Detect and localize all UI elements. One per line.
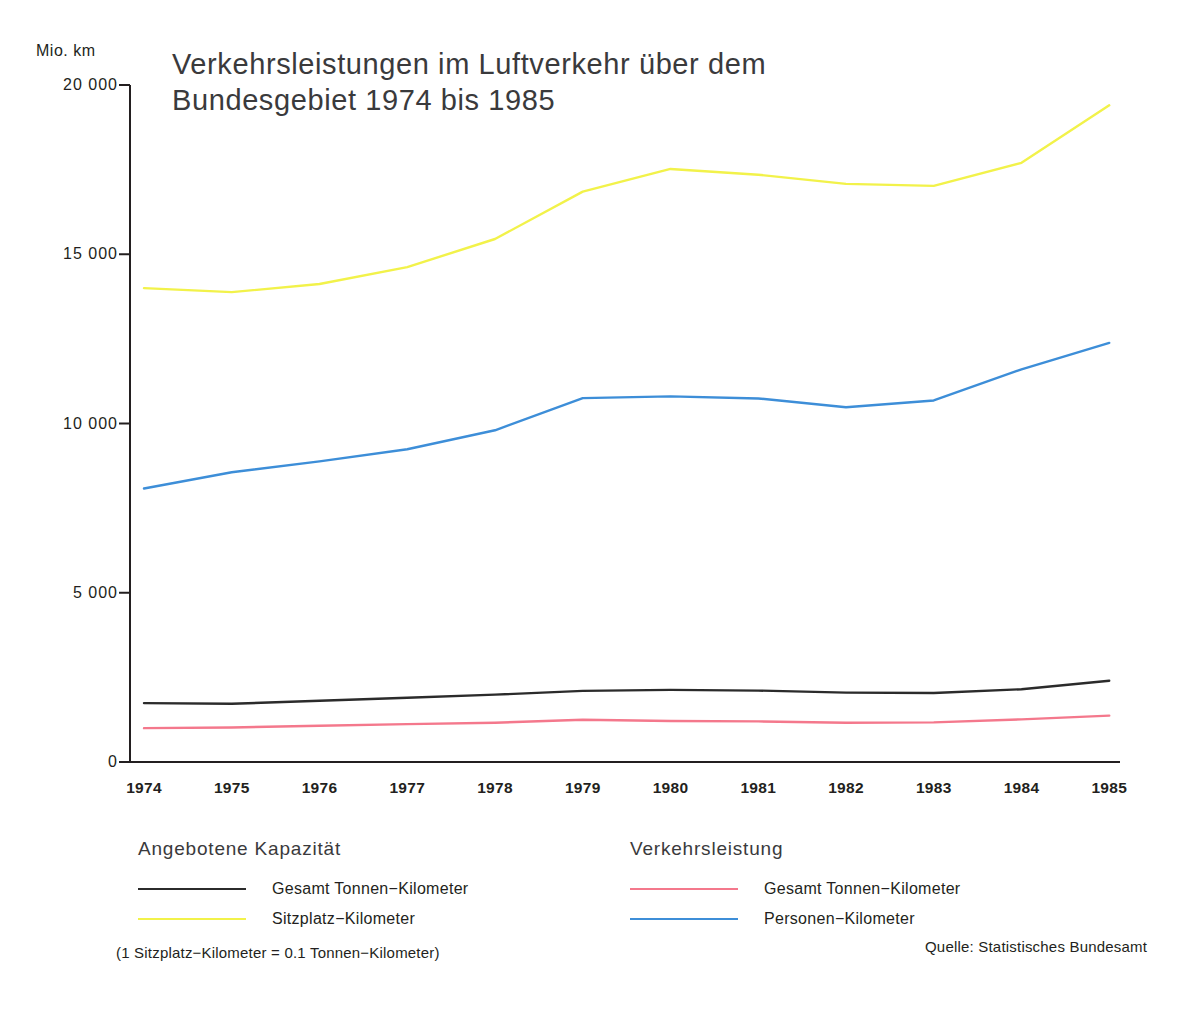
legend-capacity: Angebotene Kapazität Gesamt Tonnen−Kilom… bbox=[138, 838, 469, 940]
legend-item-capacity-sitzplatz[interactable]: Sitzplatz−Kilometer bbox=[138, 910, 469, 928]
legend-swatch-black bbox=[138, 888, 246, 890]
y-tick-label: 20 000 bbox=[10, 76, 118, 94]
x-tick-label: 1975 bbox=[214, 779, 250, 797]
chart-page: Mio. km Verkehrsleistungen im Luftverkeh… bbox=[0, 0, 1194, 1017]
series-line-personen-kilometer bbox=[144, 343, 1109, 489]
y-tick-label: 10 000 bbox=[10, 415, 118, 433]
x-tick-label: 1980 bbox=[653, 779, 689, 797]
x-tick-label: 1982 bbox=[828, 779, 864, 797]
x-tick-label: 1985 bbox=[1091, 779, 1127, 797]
axis-lines bbox=[119, 85, 1120, 762]
legend-item-performance-personen[interactable]: Personen−Kilometer bbox=[630, 910, 961, 928]
legend-label-performance-personen: Personen−Kilometer bbox=[764, 910, 915, 928]
x-tick-label: 1983 bbox=[916, 779, 952, 797]
x-tick-label: 1976 bbox=[302, 779, 338, 797]
legend-performance: Verkehrsleistung Gesamt Tonnen−Kilometer… bbox=[630, 838, 961, 940]
x-tick-label: 1984 bbox=[1004, 779, 1040, 797]
legend-performance-heading: Verkehrsleistung bbox=[630, 838, 961, 860]
series-line-sitzplatz-kilometer bbox=[144, 105, 1109, 292]
data-series-group bbox=[144, 105, 1109, 728]
legend-capacity-heading: Angebotene Kapazität bbox=[138, 838, 469, 860]
legend-swatch-blue bbox=[630, 918, 738, 920]
legend-swatch-yellow bbox=[138, 918, 246, 920]
y-tick-label: 0 bbox=[10, 753, 118, 771]
legend-item-capacity-tonnen[interactable]: Gesamt Tonnen−Kilometer bbox=[138, 880, 469, 898]
x-tick-label: 1974 bbox=[126, 779, 162, 797]
y-tick-label: 15 000 bbox=[10, 245, 118, 263]
series-line-gesamt-tonnen-kilometer bbox=[144, 681, 1109, 704]
x-tick-label: 1981 bbox=[740, 779, 776, 797]
legend-label-performance-tonnen: Gesamt Tonnen−Kilometer bbox=[764, 880, 961, 898]
x-tick-label: 1978 bbox=[477, 779, 513, 797]
x-tick-label: 1979 bbox=[565, 779, 601, 797]
legend-swatch-red bbox=[630, 888, 738, 890]
x-tick-label: 1977 bbox=[389, 779, 425, 797]
chart-footnote: (1 Sitzplatz−Kilometer = 0.1 Tonnen−Kilo… bbox=[116, 944, 440, 961]
legend-label-capacity-tonnen: Gesamt Tonnen−Kilometer bbox=[272, 880, 469, 898]
chart-source: Quelle: Statistisches Bundesamt bbox=[925, 938, 1147, 955]
series-line-gesamt-tonnen-kilometer bbox=[144, 716, 1109, 729]
legend-label-capacity-sitzplatz: Sitzplatz−Kilometer bbox=[272, 910, 415, 928]
y-tick-label: 5 000 bbox=[10, 584, 118, 602]
legend-item-performance-tonnen[interactable]: Gesamt Tonnen−Kilometer bbox=[630, 880, 961, 898]
